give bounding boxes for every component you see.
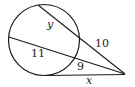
label-10: 10 bbox=[95, 37, 109, 50]
label-y: y bbox=[46, 18, 54, 31]
label-9: 9 bbox=[77, 60, 84, 73]
label-11: 11 bbox=[31, 47, 45, 60]
label-x: x bbox=[86, 74, 93, 87]
geometry-diagram: y 10 11 9 x bbox=[0, 0, 135, 87]
